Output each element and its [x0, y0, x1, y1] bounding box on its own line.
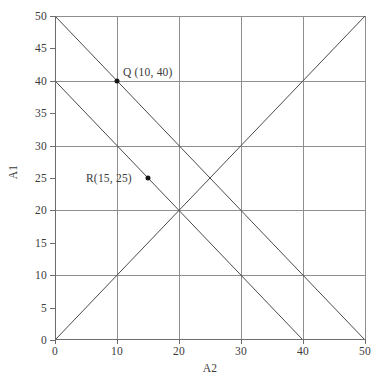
data-point-r	[146, 176, 151, 181]
y-tick-label: 20	[35, 204, 47, 216]
y-tick-mark	[50, 210, 55, 211]
y-tick-mark	[50, 275, 55, 276]
y-tick-label: 45	[35, 42, 47, 54]
x-tick-mark	[179, 339, 180, 344]
x-tick-label: 40	[297, 345, 309, 357]
data-point-label-r: R(15, 25)	[86, 172, 132, 184]
x-axis-title: A2	[203, 362, 218, 374]
y-axis-line	[55, 16, 56, 340]
y-tick-label: 0	[41, 334, 47, 346]
x-tick-label: 0	[52, 345, 58, 357]
y-tick-label: 35	[35, 107, 47, 119]
x-tick-mark	[365, 339, 366, 344]
x-tick-mark	[241, 339, 242, 344]
x-tick-mark	[117, 339, 118, 344]
chart-canvas: 05101520253035404550 01020304050 Q (10, …	[0, 0, 385, 385]
gridline-vertical	[365, 16, 366, 340]
data-point-q	[115, 78, 120, 83]
x-tick-mark	[303, 339, 304, 344]
data-point-label-q: Q (10, 40)	[123, 66, 173, 78]
y-tick-mark	[50, 113, 55, 114]
y-tick-mark	[50, 146, 55, 147]
y-tick-label: 10	[35, 269, 47, 281]
x-axis-line	[55, 339, 365, 340]
x-tick-label: 30	[235, 345, 247, 357]
y-tick-mark	[50, 16, 55, 17]
y-tick-label: 50	[35, 10, 47, 22]
y-tick-label: 25	[35, 172, 47, 184]
y-tick-mark	[50, 48, 55, 49]
y-tick-label: 40	[35, 75, 47, 87]
y-tick-label: 5	[41, 302, 47, 314]
x-tick-label: 50	[359, 345, 371, 357]
y-tick-mark	[50, 178, 55, 179]
y-axis-title: A1	[7, 165, 19, 180]
y-tick-mark	[50, 308, 55, 309]
y-tick-label: 30	[35, 140, 47, 152]
y-tick-mark	[50, 243, 55, 244]
plot-area: 05101520253035404550 01020304050 Q (10, …	[55, 16, 365, 340]
x-tick-mark	[55, 339, 56, 344]
x-tick-label: 10	[111, 345, 123, 357]
y-tick-label: 15	[35, 237, 47, 249]
x-tick-label: 20	[173, 345, 185, 357]
y-tick-mark	[50, 81, 55, 82]
